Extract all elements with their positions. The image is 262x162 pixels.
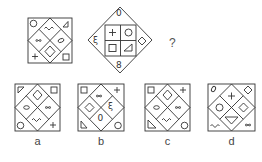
plus-icon bbox=[32, 54, 38, 60]
plus-icon bbox=[228, 93, 235, 100]
square-icon bbox=[109, 45, 116, 52]
circle-icon bbox=[115, 122, 122, 129]
plus-icon bbox=[109, 29, 116, 36]
infinity-icon bbox=[176, 107, 181, 109]
oval-icon bbox=[24, 106, 30, 110]
option-c[interactable] bbox=[145, 84, 190, 131]
diamond-icon bbox=[244, 86, 252, 94]
circle-icon bbox=[216, 104, 223, 111]
square-icon bbox=[148, 87, 154, 93]
triangle-icon bbox=[124, 44, 132, 51]
triangle-icon bbox=[148, 120, 156, 128]
option-b[interactable] bbox=[78, 84, 124, 131]
wave-icon bbox=[162, 119, 171, 122]
circle-icon bbox=[181, 122, 188, 129]
eight-glyph: 8 bbox=[116, 60, 122, 70]
epsilon-glyph: ξ bbox=[93, 35, 98, 45]
square-icon bbox=[63, 54, 69, 60]
oval-icon bbox=[154, 106, 160, 110]
option-label-a[interactable]: a bbox=[28, 135, 48, 147]
infinity-icon bbox=[97, 95, 102, 97]
figure-1 bbox=[28, 18, 72, 63]
option-label-d[interactable]: d bbox=[222, 135, 242, 147]
circle-icon bbox=[30, 20, 37, 27]
triangle-icon bbox=[225, 117, 238, 124]
zero-glyph: 0 bbox=[98, 113, 104, 123]
square-icon bbox=[81, 87, 87, 93]
option-a[interactable] bbox=[15, 84, 60, 131]
plus-icon bbox=[50, 122, 56, 128]
oval-icon bbox=[211, 86, 217, 93]
diamond-icon bbox=[239, 103, 248, 112]
circle-icon bbox=[17, 122, 24, 129]
option-label-c[interactable]: c bbox=[158, 135, 178, 147]
triangle-icon bbox=[63, 22, 68, 28]
question-mark: ? bbox=[169, 36, 176, 50]
diamond-icon bbox=[45, 46, 55, 57]
wave-icon bbox=[45, 27, 54, 30]
plus-icon bbox=[114, 87, 120, 93]
zero-glyph: 0 bbox=[116, 8, 122, 18]
triangle-icon bbox=[18, 87, 24, 93]
option-d[interactable] bbox=[208, 84, 255, 131]
infinity-icon bbox=[246, 124, 251, 126]
diamond-icon bbox=[33, 90, 42, 100]
triangle-icon bbox=[81, 121, 87, 128]
epsilon-glyph: ξ bbox=[108, 101, 113, 111]
wave-icon bbox=[32, 119, 41, 122]
wave-icon bbox=[211, 125, 220, 128]
diamond-icon bbox=[138, 37, 146, 45]
diamond-icon bbox=[85, 103, 94, 112]
plus-icon bbox=[180, 87, 186, 93]
option-label-b[interactable]: b bbox=[91, 135, 111, 147]
circle-icon bbox=[125, 29, 132, 36]
infinity-icon bbox=[36, 40, 41, 42]
infinity-icon bbox=[46, 107, 51, 109]
diamond-icon bbox=[163, 90, 172, 100]
square-icon bbox=[51, 87, 57, 93]
oval-icon bbox=[58, 38, 65, 43]
